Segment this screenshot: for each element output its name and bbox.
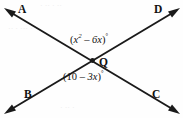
arrowhead-a-icon — [4, 8, 16, 18]
point-label-c: C — [152, 89, 160, 101]
angle-expression-upper: (x2 – 6x)° — [70, 33, 108, 45]
vertex-point-q-dot — [90, 58, 95, 63]
arrowhead-d-icon — [168, 8, 180, 18]
point-label-b: B — [24, 89, 32, 101]
angle-expression-lower: (10 – 3x)° — [63, 70, 104, 82]
geometry-figure: · ·· · ·· ·· · ··· · · ·· · A D B C Q (x… — [0, 0, 183, 118]
angle-lower-constant: 10 — [67, 71, 78, 82]
point-label-d: D — [154, 4, 162, 16]
angle-upper-operator: – — [82, 34, 93, 45]
arrowhead-c-icon — [168, 105, 180, 115]
angle-upper-term: 6x — [92, 34, 102, 45]
point-label-q: Q — [99, 57, 108, 69]
angle-upper-degree-symbol: ° — [106, 32, 109, 39]
angle-lower-term: 3x — [88, 71, 98, 82]
angle-lower-degree-symbol: ° — [101, 69, 104, 76]
angle-lower-operator: – — [77, 71, 88, 82]
arrowhead-b-icon — [4, 105, 16, 115]
point-label-a: A — [18, 4, 26, 16]
